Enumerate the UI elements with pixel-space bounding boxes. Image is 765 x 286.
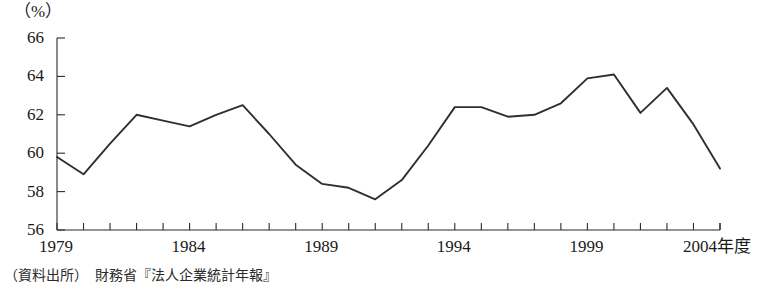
line-chart-plot — [0, 0, 765, 286]
chart-axes — [57, 38, 720, 230]
x-axis-tick-label: 1999 — [569, 238, 603, 255]
chart-data-series — [57, 74, 720, 199]
y-axis-tick-label: 56 — [10, 221, 44, 238]
y-axis-tick-label: 64 — [10, 67, 44, 84]
x-axis-tick-label: 1989 — [304, 238, 338, 255]
y-axis-tick-label: 62 — [10, 106, 44, 123]
chart-tick-marks — [57, 38, 720, 230]
y-axis-tick-label: 60 — [10, 144, 44, 161]
y-axis-tick-label: 66 — [10, 29, 44, 46]
data-series-line — [57, 74, 720, 199]
y-axis-tick-label: 58 — [10, 183, 44, 200]
x-axis-tick-label: 1984 — [172, 238, 206, 255]
x-axis-tick-label: 1994 — [437, 238, 471, 255]
chart-figure: （%） 666462605856 19791984198919941999200… — [0, 0, 765, 286]
source-note: （資料出所） 財務省『法人企業統計年報』 — [4, 268, 277, 286]
x-axis-tick-label: 1979 — [39, 238, 73, 255]
x-axis-tick-label: 2004年度 — [683, 238, 751, 255]
